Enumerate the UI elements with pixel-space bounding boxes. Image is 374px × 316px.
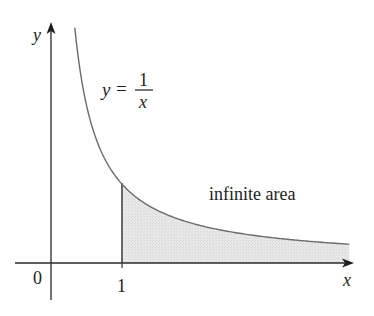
- diagram-canvas: y x 0 1 y = 1 x infinite area: [0, 0, 374, 316]
- y-axis-label: y: [31, 25, 41, 45]
- tick-label-1: 1: [117, 276, 126, 296]
- origin-label: 0: [33, 268, 42, 288]
- function-label-lhs: y: [100, 79, 111, 100]
- x-axis-label: x: [342, 270, 351, 290]
- improper-integral-diagram: y x 0 1 y = 1 x infinite area: [0, 0, 374, 316]
- region-label-infinite-area: infinite area: [209, 184, 295, 204]
- function-label-denominator: x: [138, 92, 147, 112]
- function-label-numerator: 1: [139, 70, 148, 90]
- function-label-equals: =: [116, 78, 127, 99]
- curve-y-equals-1-over-x: [75, 28, 349, 245]
- function-label: y = 1 x: [100, 70, 153, 112]
